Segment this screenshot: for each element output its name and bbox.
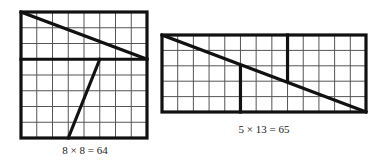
square-caption: 8 × 8 = 64 bbox=[62, 144, 107, 156]
square-8x8-figure bbox=[21, 12, 147, 138]
rectangle-5x13-figure bbox=[162, 35, 366, 112]
rectangle-caption: 5 × 13 = 65 bbox=[239, 123, 290, 135]
puzzle-diagram bbox=[0, 0, 387, 164]
cut-line bbox=[162, 35, 366, 112]
